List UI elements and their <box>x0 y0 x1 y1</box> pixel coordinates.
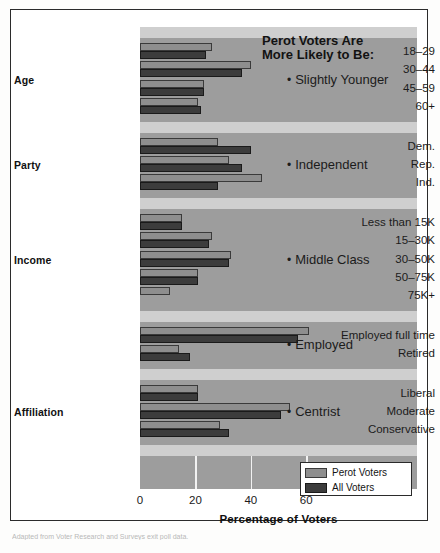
chart-page: 18–2930–4445–5960+AgeDem.Rep.Ind.PartyLe… <box>0 0 440 553</box>
separator-band <box>140 445 417 456</box>
legend-swatch-perot <box>305 468 327 478</box>
bullet-icon: • <box>287 338 291 352</box>
separator-band <box>140 311 417 322</box>
bullet-icon: • <box>287 405 291 419</box>
legend-swatch-all <box>305 483 327 493</box>
bar-all <box>140 240 209 248</box>
bar-perot <box>140 327 309 335</box>
separator-band <box>140 369 417 380</box>
bar-all <box>140 164 242 172</box>
bar-all <box>140 353 190 361</box>
bar-perot <box>140 232 212 240</box>
bar-perot <box>140 287 170 295</box>
group-label-affiliation: Affiliation <box>14 406 64 418</box>
bar-all <box>140 146 251 154</box>
annotation-employment: •Employed <box>287 337 353 352</box>
category-label: Ind. <box>308 177 440 188</box>
annotation-label: Slightly Younger <box>295 72 388 87</box>
separator-band <box>140 122 417 133</box>
bar-all <box>140 393 198 401</box>
category-label: 75K+ <box>308 290 440 301</box>
bar-all <box>140 411 281 419</box>
group-label-party: Party <box>14 159 41 171</box>
category-label: Conservative <box>308 424 440 435</box>
annotation-label: Independent <box>295 157 367 172</box>
figure-caption: Adapted from Voter Research and Surveys … <box>12 533 432 540</box>
x-tick-20: 20 <box>189 494 202 506</box>
bar-all <box>140 222 182 230</box>
annotation-label: Centrist <box>295 404 340 419</box>
annotation-label: Employed <box>295 337 353 352</box>
annotation-party: •Independent <box>287 157 368 172</box>
bar-all <box>140 51 206 59</box>
bar-perot <box>140 174 262 182</box>
legend-label-perot: Perot Voters <box>332 467 387 478</box>
group-label-age: Age <box>14 74 34 86</box>
bar-perot <box>140 98 198 106</box>
bar-all <box>140 106 201 114</box>
category-label: Liberal <box>308 388 440 399</box>
bar-perot <box>140 156 229 164</box>
legend-item-perot: Perot Voters <box>305 466 407 479</box>
bar-perot <box>140 251 231 259</box>
callout-title-line2: More Likely to Be: <box>262 48 374 63</box>
separator-band <box>140 198 417 209</box>
category-label: Less than 15K <box>308 217 440 228</box>
bullet-icon: • <box>287 73 291 87</box>
legend-label-all: All Voters <box>332 482 374 493</box>
bar-perot <box>140 345 179 353</box>
bar-all <box>140 88 204 96</box>
annotation-label: Middle Class <box>295 252 369 267</box>
x-tick-40: 40 <box>244 494 257 506</box>
bar-perot <box>140 80 204 88</box>
bar-perot <box>140 403 290 411</box>
annotation-income: •Middle Class <box>287 252 370 267</box>
bar-perot <box>140 385 198 393</box>
bar-all <box>140 277 198 285</box>
bar-all <box>140 429 229 437</box>
bar-perot <box>140 61 251 69</box>
annotation-affiliation: •Centrist <box>287 404 340 419</box>
bar-all <box>140 259 229 267</box>
category-label: 15–30K <box>308 235 440 246</box>
bar-all <box>140 335 298 343</box>
x-tick-0: 0 <box>137 494 143 506</box>
chart-legend: Perot Voters All Voters <box>300 462 412 496</box>
bar-perot <box>140 421 220 429</box>
bullet-icon: • <box>287 158 291 172</box>
bar-all <box>140 182 218 190</box>
group-label-income: Income <box>14 254 51 266</box>
bar-perot <box>140 269 198 277</box>
bar-all <box>140 69 242 77</box>
x-axis-title: Percentage of Voters <box>140 513 417 525</box>
annotation-age: •Slightly Younger <box>287 72 388 87</box>
category-label: 60+ <box>308 101 440 112</box>
bar-perot <box>140 138 218 146</box>
bar-perot <box>140 214 182 222</box>
legend-item-all: All Voters <box>305 481 407 494</box>
category-label: Dem. <box>308 141 440 152</box>
bullet-icon: • <box>287 253 291 267</box>
bar-perot <box>140 43 212 51</box>
category-label: 50–75K <box>308 272 440 283</box>
